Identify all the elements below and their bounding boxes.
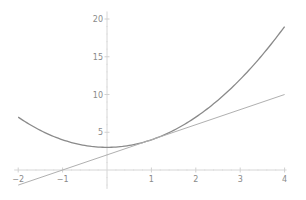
chart: −2−112345101520 (0, 0, 306, 200)
x-tick-label: 3 (238, 175, 243, 184)
axis-ticks (18, 19, 284, 185)
x-tick-label: −2 (12, 175, 24, 184)
y-tick-label: 5 (98, 128, 103, 137)
x-tick-label: 1 (149, 175, 154, 184)
x-tick-label: −1 (57, 175, 69, 184)
x-tick-label: 4 (282, 175, 287, 184)
y-tick-label: 20 (93, 15, 103, 24)
plot-series (18, 27, 284, 186)
parabola-curve (18, 27, 284, 148)
y-tick-label: 10 (93, 91, 103, 100)
tick-labels: −2−112345101520 (12, 15, 287, 184)
axes (14, 11, 286, 188)
y-tick-label: 15 (93, 53, 103, 62)
x-tick-label: 2 (193, 175, 198, 184)
